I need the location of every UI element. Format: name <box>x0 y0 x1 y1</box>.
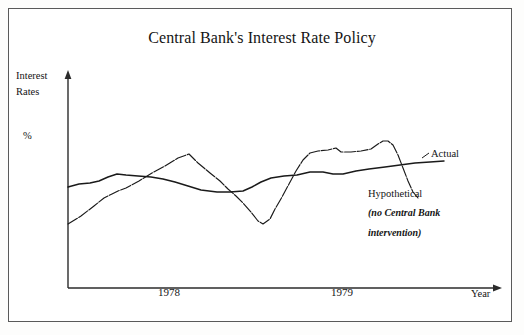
x-axis <box>68 285 502 292</box>
actual-leader-line <box>422 153 429 158</box>
series-label-hypothetical: Hypothetical <box>368 188 422 199</box>
chart-plot-area <box>0 0 524 335</box>
series-line-hypothetical <box>68 141 418 224</box>
x-axis-tick-1979: 1979 <box>331 287 353 299</box>
series-label-actual: Actual <box>431 148 459 159</box>
x-axis-label: Year <box>471 288 490 299</box>
page-title: Central Bank's Interest Rate Policy <box>0 30 524 47</box>
y-axis-label-line1: Interest <box>16 70 48 81</box>
y-axis-label-line2: Rates <box>16 86 39 97</box>
y-axis-unit-label: % <box>23 130 32 141</box>
figure-container: Central Bank's Interest Rate Policy Inte… <box>0 0 524 335</box>
series-note-line1: (no Central Bank <box>368 208 440 219</box>
y-axis <box>65 70 72 288</box>
x-axis-tick-1978: 1978 <box>158 287 180 299</box>
series-note-line2: intervention) <box>368 228 421 239</box>
